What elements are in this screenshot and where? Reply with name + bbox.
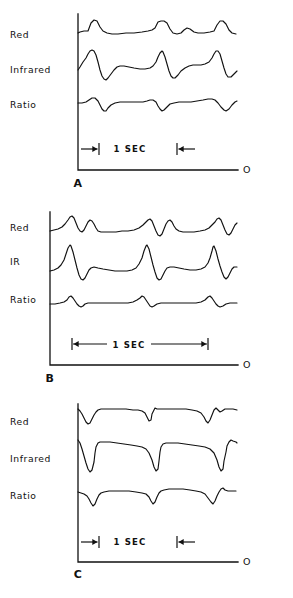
trace-label-a-red: Red: [10, 29, 29, 40]
scale-arrow-left-c: [92, 539, 97, 545]
trace-label-b-red: Red: [10, 222, 29, 233]
waveform-a-infrared: [78, 50, 237, 80]
waveform-b-ratio: [50, 296, 237, 307]
scale-arrow-right-a: [179, 146, 184, 152]
waveform-a-ratio: [78, 98, 237, 111]
panel-c-origin-label: O: [243, 556, 250, 567]
scale-arrow-left-b: [74, 341, 79, 347]
panel-c-axis: [78, 404, 238, 562]
trace-label-c-ratio: Ratio: [10, 490, 37, 501]
figure-canvas: OARedInfraredRatio1 SECOBRedIRRatio1 SEC…: [0, 0, 293, 598]
scale-label-c: 1 SEC: [114, 537, 147, 547]
scale-bar-b: 1 SEC: [72, 338, 208, 350]
panel-c: OCRedInfraredRatio1 SEC: [10, 404, 250, 581]
scale-label-a: 1 SEC: [114, 144, 147, 154]
pulse-oximeter-figure: OARedInfraredRatio1 SECOBRedIRRatio1 SEC…: [0, 0, 293, 598]
scale-bar-a: 1 SEC: [81, 143, 195, 155]
scale-arrow-right-b: [201, 341, 206, 347]
waveform-a-red: [78, 20, 236, 34]
scale-arrow-left-a: [92, 146, 97, 152]
panel-b-origin-label: O: [243, 359, 250, 370]
trace-label-a-infrared: Infrared: [10, 64, 51, 75]
panel-letter-c: C: [74, 568, 83, 581]
waveform-b-ir: [50, 245, 237, 280]
trace-label-c-infrared: Infrared: [10, 453, 51, 464]
panel-a-axis: [78, 14, 238, 170]
trace-label-b-ir: IR: [10, 256, 20, 267]
scale-arrow-right-c: [179, 539, 184, 545]
panel-letter-a: A: [73, 177, 82, 190]
panel-a-origin-label: O: [243, 164, 250, 175]
panel-b: OBRedIRRatio1 SEC: [10, 212, 250, 385]
waveform-c-red: [78, 408, 237, 424]
scale-bar-c: 1 SEC: [81, 536, 195, 548]
panel-a: OARedInfraredRatio1 SEC: [10, 14, 250, 190]
scale-label-b: 1 SEC: [113, 340, 146, 350]
panel-letter-b: B: [46, 372, 55, 385]
waveform-c-ratio: [78, 488, 236, 506]
trace-label-c-red: Red: [10, 416, 29, 427]
trace-label-a-ratio: Ratio: [10, 99, 37, 110]
waveform-c-infrared: [78, 440, 237, 472]
trace-label-b-ratio: Ratio: [10, 294, 37, 305]
waveform-b-red: [50, 216, 237, 236]
